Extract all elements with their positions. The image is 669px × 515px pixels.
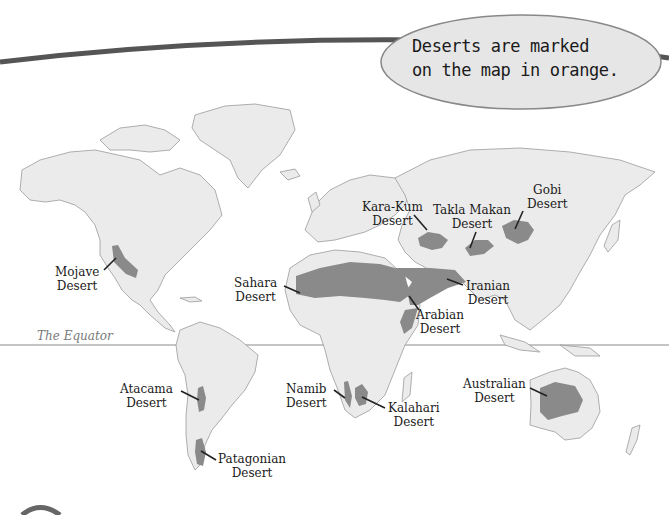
- label-kara-kum: Kara-Kum Desert: [362, 200, 423, 228]
- label-line: Sahara: [234, 276, 277, 290]
- label-kalahari: Kalahari Desert: [388, 401, 440, 429]
- label-australian: Australian Desert: [463, 377, 526, 405]
- arctic-islands: [100, 125, 180, 152]
- island-madagascar: [402, 372, 412, 402]
- label-line: Patagonian: [218, 452, 286, 466]
- continent-north-america: [20, 150, 222, 332]
- label-line: Gobi: [527, 183, 568, 197]
- label-namib: Namib Desert: [286, 382, 327, 410]
- callout-line-1: Deserts are marked: [412, 34, 652, 58]
- caribbean-islands: [180, 297, 202, 302]
- label-line: Kalahari: [388, 401, 440, 415]
- label-sahara: Sahara Desert: [234, 276, 277, 304]
- label-atacama: Atacama Desert: [120, 382, 173, 410]
- label-mojave: Mojave Desert: [55, 265, 99, 293]
- label-line: Desert: [286, 396, 327, 410]
- island-new-guinea: [560, 345, 600, 356]
- label-line: Desert: [527, 197, 568, 211]
- island-iceland: [280, 169, 300, 180]
- label-line: Desert: [234, 290, 277, 304]
- label-line: Mojave: [55, 265, 99, 279]
- label-line: Namib: [286, 382, 327, 396]
- label-line: Desert: [218, 466, 286, 480]
- label-patagonian: Patagonian Desert: [218, 452, 286, 480]
- label-line: Australian: [463, 377, 526, 391]
- corner-decoration: [22, 508, 60, 515]
- label-line: Desert: [463, 391, 526, 405]
- label-iranian: Iranian Desert: [466, 279, 510, 307]
- label-line: Desert: [466, 293, 510, 307]
- label-line: Iranian: [466, 279, 510, 293]
- label-line: Desert: [416, 322, 464, 336]
- label-arabian: Arabian Desert: [416, 308, 464, 336]
- continent-greenland: [192, 104, 295, 188]
- label-takla-makan: Takla Makan Desert: [433, 203, 511, 231]
- label-line: Desert: [362, 214, 423, 228]
- label-line: Atacama: [120, 382, 173, 396]
- label-line: Takla Makan: [433, 203, 511, 217]
- callout-text: Deserts are marked on the map in orange.: [412, 34, 652, 82]
- label-line: Desert: [120, 396, 173, 410]
- label-line: Kara-Kum: [362, 200, 423, 214]
- callout-line-2: on the map in orange.: [412, 58, 652, 82]
- label-gobi: Gobi Desert: [527, 183, 568, 211]
- label-line: Desert: [55, 279, 99, 293]
- label-line: Arabian: [416, 308, 464, 322]
- island-southeast-asia: [500, 335, 540, 352]
- label-line: Desert: [388, 415, 440, 429]
- label-line: Desert: [433, 217, 511, 231]
- equator-label: The Equator: [37, 329, 113, 343]
- continent-south-america: [176, 322, 258, 470]
- island-new-zealand: [626, 425, 640, 455]
